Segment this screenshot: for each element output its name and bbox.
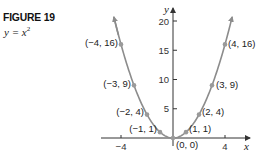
point-label: (1, 1) xyxy=(189,123,211,134)
data-point xyxy=(223,42,228,47)
data-point xyxy=(171,136,176,141)
data-point xyxy=(184,130,189,135)
point-label: (3, 9) xyxy=(216,79,238,90)
data-point xyxy=(119,42,124,47)
point-label: (0, 0) xyxy=(176,139,198,150)
data-point xyxy=(210,83,215,88)
x-tick-label: 4 xyxy=(222,141,227,152)
data-point xyxy=(158,130,163,135)
x-tick-label: −4 xyxy=(116,141,127,152)
point-label: (−1, 1) xyxy=(129,123,157,134)
point-labels: (−4, 16)(−3, 9)(−2, 4)(−1, 1)(0, 0)(1, 1… xyxy=(85,37,255,150)
y-tick-label: 20 xyxy=(158,16,169,27)
y-axis-label: y xyxy=(163,3,169,15)
parabola-chart: −445101520 (−4, 16)(−3, 9)(−2, 4)(−1, 1)… xyxy=(0,0,261,154)
y-tick-label: 10 xyxy=(158,74,169,85)
data-point xyxy=(132,83,137,88)
point-label: (4, 16) xyxy=(228,38,255,49)
point-label: (−4, 16) xyxy=(85,37,118,48)
point-label: (2, 4) xyxy=(202,106,224,117)
y-tick-label: 5 xyxy=(164,103,169,114)
data-point xyxy=(197,112,202,117)
x-axis-label: x xyxy=(243,140,249,152)
y-tick-label: 15 xyxy=(158,45,169,56)
point-label: (−3, 9) xyxy=(103,78,131,89)
point-label: (−2, 4) xyxy=(116,106,144,117)
curve-left-arrow xyxy=(114,17,119,35)
data-point xyxy=(145,112,150,117)
